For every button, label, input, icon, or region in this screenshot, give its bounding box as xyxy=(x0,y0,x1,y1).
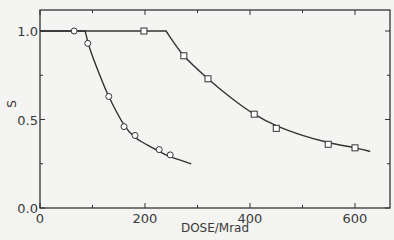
circle-marker xyxy=(106,93,112,99)
y-axis-label: S xyxy=(5,100,19,108)
square-marker xyxy=(325,141,331,147)
x-tick-label: 600 xyxy=(343,211,368,226)
circle-marker xyxy=(156,147,162,153)
circles-curve xyxy=(40,31,191,164)
y-tick-label: 0.0 xyxy=(17,201,38,216)
y-tick-label: 0.5 xyxy=(17,113,38,128)
square-marker xyxy=(181,53,187,59)
x-tick-label: 200 xyxy=(133,211,158,226)
square-marker xyxy=(273,125,279,131)
survival-chart: 02004006000.00.51.0 DOSE/Mrad S xyxy=(0,0,394,240)
circle-marker xyxy=(85,40,91,46)
square-marker xyxy=(141,28,147,34)
x-axis-label: DOSE/Mrad xyxy=(181,221,249,235)
circle-marker xyxy=(121,124,127,130)
data-curves xyxy=(40,31,370,164)
circle-marker xyxy=(167,152,173,158)
tick-labels: 02004006000.00.51.0 xyxy=(17,24,367,226)
axis-ticks xyxy=(40,10,390,208)
circle-marker xyxy=(132,132,138,138)
square-marker xyxy=(205,76,211,82)
square-marker xyxy=(352,145,358,151)
square-marker xyxy=(251,111,257,117)
y-tick-label: 1.0 xyxy=(17,24,38,39)
plot-border xyxy=(40,10,390,208)
circle-marker xyxy=(71,28,77,34)
plot-frame xyxy=(40,10,390,208)
